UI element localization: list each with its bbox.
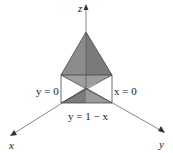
plane-label-x0: x = 0 (114, 86, 137, 97)
solid-figure (0, 0, 173, 153)
plane-label-y0: y = 0 (36, 86, 59, 97)
diagram: z x y y = 0 x = 0 y = 1 − x (0, 0, 173, 153)
y-axis-label: y (159, 139, 164, 150)
pyramid-top-band (61, 75, 112, 88)
y-arrow-icon (158, 126, 165, 133)
x-axis-label: x (9, 140, 14, 151)
x-arrow-icon (10, 130, 17, 136)
z-arrow-icon (84, 4, 89, 10)
z-axis-label: z (78, 3, 82, 14)
plane-label-y1mx: y = 1 − x (68, 111, 108, 122)
